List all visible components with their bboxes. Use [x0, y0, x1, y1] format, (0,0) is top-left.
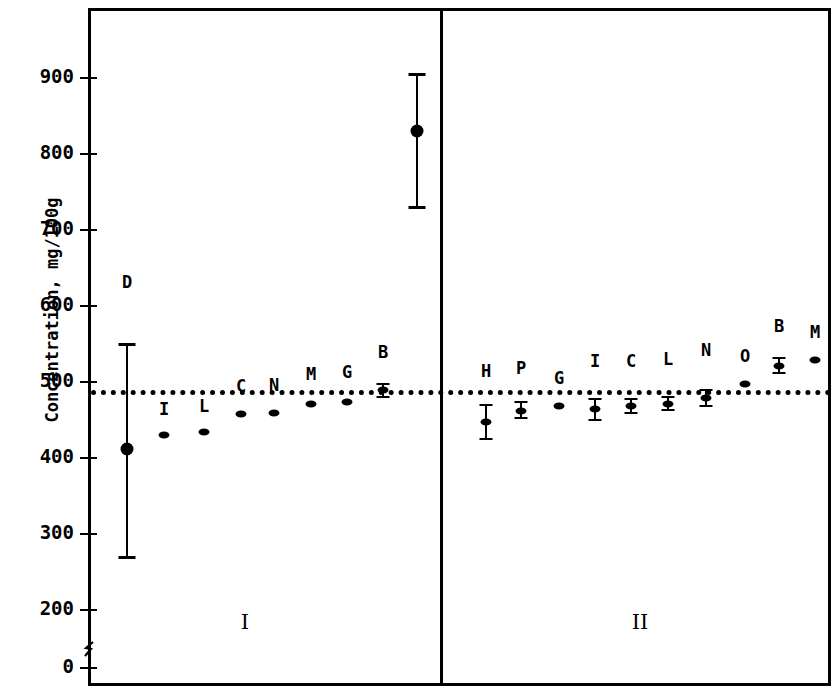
error-cap-lower-II-P — [515, 417, 528, 419]
data-marker-I-I[interactable] — [159, 432, 170, 439]
error-cap-upper-I-D — [119, 343, 136, 346]
panel-label-two: II — [632, 610, 649, 634]
error-cap-lower-I-B — [377, 396, 390, 398]
error-cap-lower-II-B — [773, 372, 786, 374]
data-marker-II-P[interactable] — [516, 407, 527, 414]
error-cap-upper-I-O — [409, 73, 426, 76]
y-tick-0 — [80, 667, 97, 669]
panel-divider — [440, 8, 443, 686]
data-label-I-M: M — [306, 364, 316, 384]
data-label-II-N: N — [701, 340, 711, 360]
data-marker-I-B[interactable] — [378, 387, 389, 394]
y-tick-600 — [80, 305, 97, 307]
error-cap-lower-I-D — [119, 556, 136, 559]
data-label-I-G: G — [342, 362, 352, 382]
data-label-II-O: O — [740, 346, 750, 366]
data-label-II-C: C — [626, 351, 636, 371]
data-marker-I-L[interactable] — [199, 429, 210, 436]
error-cap-upper-II-H — [480, 404, 493, 406]
data-label-I-D: D — [122, 272, 132, 292]
y-tick-label-400: 400 — [2, 445, 74, 467]
y-tick-200 — [80, 609, 97, 611]
panel-label-one: I — [241, 610, 249, 634]
error-cap-lower-I-O — [409, 206, 426, 209]
data-marker-I-G[interactable] — [342, 398, 353, 405]
data-marker-II-B[interactable] — [774, 363, 785, 370]
y-tick-500 — [80, 381, 97, 383]
data-label-II-M: M — [810, 322, 820, 342]
data-label-I-L: L — [199, 396, 209, 416]
data-marker-I-M[interactable] — [306, 401, 317, 408]
data-marker-II-C[interactable] — [626, 403, 637, 410]
y-tick-400 — [80, 457, 97, 459]
y-tick-label-900: 900 — [2, 65, 74, 87]
error-cap-upper-II-B — [773, 357, 786, 359]
data-label-I-N: N — [269, 375, 279, 395]
data-marker-I-D[interactable] — [121, 442, 134, 455]
error-cap-upper-II-L — [662, 396, 675, 398]
error-cap-upper-I-B — [377, 383, 390, 385]
data-label-II-G: G — [554, 368, 564, 388]
data-marker-I-C[interactable] — [236, 410, 247, 417]
data-marker-II-M[interactable] — [810, 356, 821, 363]
y-tick-label-0: 0 — [2, 655, 74, 677]
y-tick-label-800: 800 — [2, 141, 74, 163]
data-label-I-B: B — [378, 342, 388, 362]
error-cap-upper-II-P — [515, 401, 528, 403]
data-label-I-C: C — [236, 376, 246, 396]
data-marker-II-G[interactable] — [554, 402, 565, 409]
error-cap-lower-II-C — [625, 412, 638, 414]
error-cap-lower-II-I — [589, 419, 602, 421]
error-cap-upper-II-I — [589, 398, 602, 400]
data-label-II-B: B — [774, 316, 784, 336]
error-cap-lower-II-N — [700, 405, 713, 407]
data-marker-II-I[interactable] — [590, 406, 601, 413]
data-marker-II-L[interactable] — [663, 401, 674, 408]
y-tick-300 — [80, 533, 97, 535]
data-marker-I-O[interactable] — [411, 125, 424, 138]
error-cap-lower-II-L — [662, 409, 675, 411]
y-tick-label-700: 700 — [2, 217, 74, 239]
data-marker-II-O[interactable] — [740, 380, 751, 387]
reference-line — [91, 390, 831, 395]
data-label-I-I: I — [159, 399, 169, 419]
data-marker-II-N[interactable] — [701, 394, 712, 401]
data-marker-II-H[interactable] — [481, 419, 492, 426]
y-tick-700 — [80, 229, 97, 231]
plot-frame — [88, 8, 831, 686]
error-cap-upper-II-N — [700, 389, 713, 391]
data-label-II-I: I — [590, 351, 600, 371]
data-label-II-L: L — [663, 349, 673, 369]
axis-break-icon — [82, 640, 98, 660]
y-tick-900 — [80, 77, 97, 79]
error-cap-upper-II-C — [625, 398, 638, 400]
y-tick-800 — [80, 153, 97, 155]
y-tick-label-300: 300 — [2, 521, 74, 543]
y-tick-label-500: 500 — [2, 369, 74, 391]
data-label-II-P: P — [516, 358, 526, 378]
y-tick-label-200: 200 — [2, 597, 74, 619]
error-bar-I-O — [416, 74, 418, 207]
y-tick-label-600: 600 — [2, 293, 74, 315]
data-marker-I-N[interactable] — [269, 410, 280, 417]
data-label-II-H: H — [481, 361, 491, 381]
error-cap-lower-II-H — [480, 438, 493, 440]
figure-canvas: Concentration, mg/100g 90080070060050040… — [0, 0, 835, 697]
